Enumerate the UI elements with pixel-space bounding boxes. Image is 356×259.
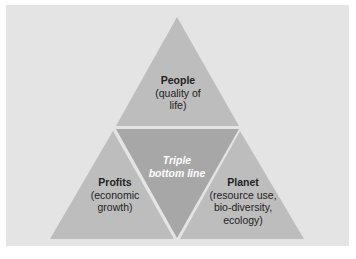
center-line-2: bottom line — [149, 167, 206, 180]
profits-desc-line-1: (economic — [91, 189, 139, 202]
center-line-1: Triple — [149, 154, 206, 167]
profits-label: Profits (economic growth) — [91, 176, 139, 214]
people-desc-line-2: life) — [155, 99, 201, 112]
planet-desc-line-1: (resource use, — [209, 189, 276, 202]
profits-desc-line-2: growth) — [91, 201, 139, 214]
people-title: People — [155, 74, 201, 87]
triple-bottom-line-diagram — [0, 0, 356, 259]
center-label: Triple bottom line — [149, 154, 206, 179]
people-label: People (quality of life) — [155, 74, 201, 112]
profits-title: Profits — [91, 176, 139, 189]
planet-title: Planet — [209, 176, 276, 189]
planet-label: Planet (resource use, bio-diversity, eco… — [209, 176, 276, 226]
planet-desc-line-2: bio-diversity, — [209, 201, 276, 214]
planet-desc-line-3: ecology) — [209, 214, 276, 227]
people-desc-line-1: (quality of — [155, 87, 201, 100]
